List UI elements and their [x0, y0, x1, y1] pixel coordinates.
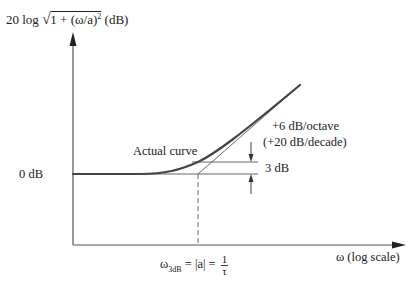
y-axis-label-prefix: 20 log [6, 12, 42, 27]
corner-frequency-label: ω3dB = |a| = 1τ [160, 254, 228, 277]
slope-label-decade: (+20 dB/decade) [263, 136, 347, 149]
y-axis-label: 20 log √1 + (ω/a)2 (dB) [6, 12, 128, 27]
arrow-down-icon [249, 154, 254, 162]
corner-equals: = |a| = [182, 257, 219, 271]
fraction: 1τ [221, 254, 229, 277]
corner-omega: ω [160, 257, 168, 271]
zero-db-label: 0 dB [19, 168, 43, 181]
arrow-up-icon [249, 174, 254, 182]
bode-plot-canvas [0, 0, 417, 288]
y-axis-label-unit: (dB) [101, 12, 128, 27]
y-axis-arrow-icon [70, 32, 77, 46]
y-axis-label-radicand: 1 + (ω/a) [50, 12, 97, 27]
x-axis-arrow-icon [392, 242, 406, 249]
slope-label-octave: +6 dB/octave [272, 120, 339, 133]
actual-curve-label: Actual curve [133, 145, 197, 158]
fraction-denominator: τ [221, 266, 229, 277]
corner-omega-subscript: 3dB [168, 265, 181, 274]
three-db-label: 3 dB [265, 162, 289, 175]
x-axis-label: ω (log scale) [336, 251, 400, 264]
